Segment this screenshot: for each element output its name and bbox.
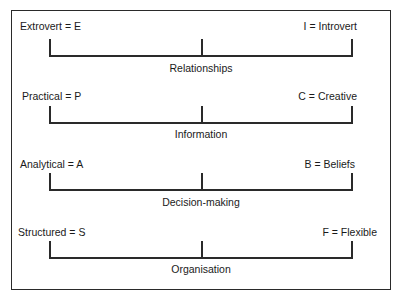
right-pole-label: C = Creative (298, 90, 357, 102)
scale-axis (49, 55, 353, 57)
dimension-label: Organisation (101, 263, 301, 275)
right-pole-label: B = Beliefs (305, 158, 356, 170)
right-pole-label: F = Flexible (322, 226, 377, 238)
scale-axis (49, 189, 353, 191)
left-pole-label: Structured = S (18, 226, 85, 238)
center-tick (201, 39, 203, 56)
dimension-label: Decision-making (101, 196, 301, 208)
left-pole-label: Extrovert = E (20, 20, 81, 32)
scale-axis (49, 257, 353, 259)
dimension-label: Information (101, 128, 301, 140)
left-tick (49, 39, 51, 56)
left-pole-label: Analytical = A (20, 158, 83, 170)
dimension-label: Relationships (101, 62, 301, 74)
right-tick (351, 39, 353, 56)
scale-axis (49, 122, 353, 124)
left-pole-label: Practical = P (22, 90, 81, 102)
right-pole-label: I = Introvert (304, 20, 357, 32)
